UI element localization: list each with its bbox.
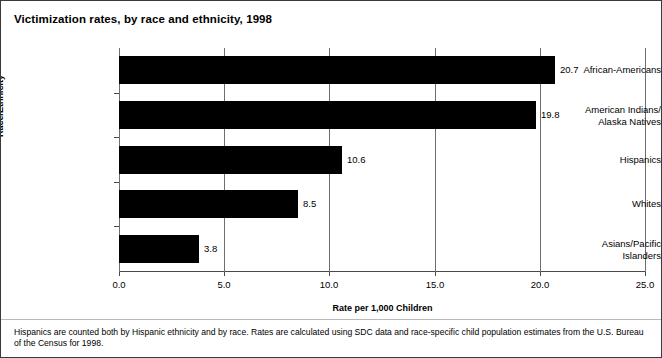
x-tick-label: 15.0 <box>426 279 445 290</box>
x-tick-mark <box>540 272 541 276</box>
x-tick-mark <box>435 272 436 276</box>
chart-title: Victimization rates, by race and ethnici… <box>14 13 272 25</box>
x-tick-mark <box>645 272 646 276</box>
bar <box>119 190 298 218</box>
category-label-line: Whites <box>553 198 661 210</box>
y-tick-mark <box>114 226 119 227</box>
footnote-text: Hispanics are counted both by Hispanic e… <box>14 327 650 349</box>
category-label-line: Hispanics <box>553 154 661 166</box>
bar <box>119 235 199 263</box>
bar <box>119 146 342 174</box>
bar-value-label: 8.5 <box>303 190 316 218</box>
y-tick-mark <box>114 182 119 183</box>
x-tick-label: 20.0 <box>531 279 550 290</box>
x-tick-label: 0.0 <box>112 279 125 290</box>
x-axis-line <box>119 271 646 272</box>
category-label: American Indians/Alaska Natives <box>553 104 661 127</box>
category-label: African-Americans <box>553 64 661 76</box>
footnote-divider <box>1 319 662 320</box>
bar-value-label: 3.8 <box>204 235 217 263</box>
y-tick-mark <box>114 137 119 138</box>
category-label-line: Asians/Pacific <box>553 238 661 250</box>
x-axis-title: Rate per 1,000 Children <box>119 303 646 313</box>
bar-value-label: 10.6 <box>347 146 366 174</box>
category-label-line: Alaska Natives <box>553 116 661 128</box>
x-tick-label: 5.0 <box>217 279 230 290</box>
bar <box>119 56 555 84</box>
category-label-line: Islanders <box>553 250 661 262</box>
category-label: Asians/PacificIslanders <box>553 238 661 261</box>
category-label: Hispanics <box>553 154 661 166</box>
x-tick-mark <box>224 272 225 276</box>
x-tick-mark <box>329 272 330 276</box>
category-label-line: American Indians/ <box>553 104 661 116</box>
figure-container: Victimization rates, by race and ethnici… <box>0 0 662 358</box>
category-label: Whites <box>553 198 661 210</box>
x-tick-mark <box>119 272 120 276</box>
bar <box>119 101 536 129</box>
category-label-line: African-Americans <box>553 64 661 76</box>
y-axis-title: Race/Ethnicity <box>0 75 5 137</box>
y-tick-mark <box>114 93 119 94</box>
x-tick-label: 10.0 <box>320 279 339 290</box>
x-tick-label: 25.0 <box>636 279 655 290</box>
